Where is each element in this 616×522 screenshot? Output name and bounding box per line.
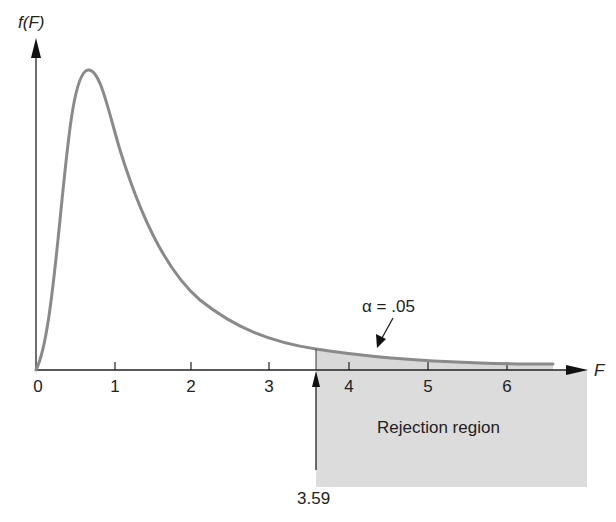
y-axis-label: f(F) bbox=[18, 14, 44, 31]
rejection-region-label: Rejection region bbox=[377, 419, 500, 436]
alpha-pointer-line bbox=[382, 318, 393, 338]
tick-label-6: 6 bbox=[502, 378, 511, 395]
x-axis-label: F bbox=[594, 362, 604, 379]
tick-label-1: 1 bbox=[110, 378, 119, 395]
tick-label-0: 0 bbox=[33, 378, 42, 395]
f-distribution-chart bbox=[0, 0, 616, 522]
critical-value-label: 3.59 bbox=[297, 490, 330, 507]
tick-label-5: 5 bbox=[423, 378, 432, 395]
tick-label-3: 3 bbox=[264, 378, 273, 395]
tick-label-4: 4 bbox=[344, 378, 353, 395]
y-axis-arrow-icon bbox=[31, 38, 41, 58]
alpha-pointer-arrow-icon bbox=[376, 334, 386, 348]
alpha-annotation: α = .05 bbox=[362, 298, 415, 315]
density-curve bbox=[36, 70, 553, 370]
tick-label-2: 2 bbox=[186, 378, 195, 395]
